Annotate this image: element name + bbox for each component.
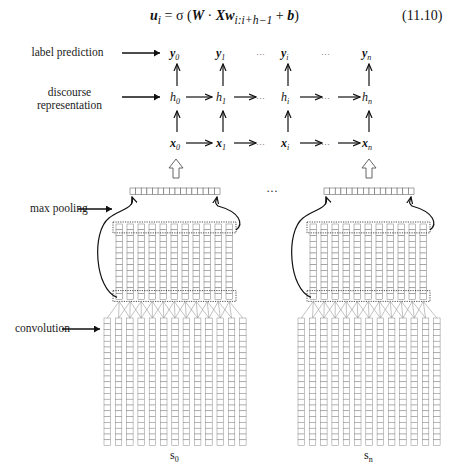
feature-cell: [182, 265, 189, 271]
input-cell: [194, 405, 201, 411]
input-cell: [355, 318, 362, 324]
input-cell: [332, 393, 339, 399]
input-cell: [149, 417, 156, 423]
feature-cell: [310, 259, 317, 265]
input-cell: [138, 434, 145, 440]
input-cell: [434, 434, 441, 440]
input-cell: [138, 393, 145, 399]
conv-connection: [390, 301, 391, 318]
input-cell: [127, 417, 134, 423]
feature-cell: [193, 241, 200, 247]
input-cell: [161, 318, 168, 324]
feature-cell: [193, 247, 200, 253]
input-cell: [217, 364, 224, 370]
input-cell: [388, 335, 395, 341]
conv-connection: [209, 301, 218, 318]
input-cell: [434, 417, 441, 423]
input-cell: [127, 330, 134, 336]
feature-cell: [398, 247, 405, 253]
input-cell: [115, 440, 122, 446]
feature-cell: [149, 236, 156, 242]
input-cell: [377, 417, 384, 423]
feature-cell: [204, 236, 211, 242]
feature-cell: [138, 265, 145, 271]
input-cell: [434, 318, 441, 324]
input-cell: [309, 393, 316, 399]
input-cell: [309, 347, 316, 353]
input-cell: [332, 347, 339, 353]
input-cell: [411, 411, 418, 417]
feature-cell: [398, 230, 405, 236]
feature-cell: [215, 236, 222, 242]
input-cell: [104, 330, 111, 336]
conv-connection: [119, 301, 120, 318]
input-cell: [321, 399, 328, 405]
feature-cell: [116, 224, 123, 230]
pooling-cell: [181, 188, 187, 195]
input-cell: [321, 376, 328, 382]
input-cell: [366, 399, 373, 405]
input-cell: [355, 341, 362, 347]
input-cell: [377, 324, 384, 330]
input-cell: [422, 434, 429, 440]
feature-cell: [138, 224, 145, 230]
input-cell: [422, 388, 429, 394]
feature-cell: [160, 276, 167, 282]
input-cell: [127, 411, 134, 417]
pooling-cell: [335, 188, 341, 195]
input-cell: [240, 388, 247, 394]
input-cell: [138, 399, 145, 405]
input-cell: [355, 428, 362, 434]
input-cell: [115, 318, 122, 324]
input-cell: [183, 382, 190, 388]
feature-cell: [160, 224, 167, 230]
input-cell: [343, 428, 350, 434]
input-cell: [366, 405, 373, 411]
feature-cell: [343, 224, 350, 230]
pooling-cell: [392, 188, 398, 195]
input-cell: [377, 335, 384, 341]
input-cell: [183, 330, 190, 336]
feature-cell: [321, 247, 328, 253]
input-cell: [321, 330, 328, 336]
input-cell: [172, 324, 179, 330]
input-cell: [366, 341, 373, 347]
input-cell: [422, 393, 429, 399]
feature-cell: [138, 259, 145, 265]
input-cell: [149, 353, 156, 359]
input-cell: [149, 399, 156, 405]
input-cell: [400, 399, 407, 405]
input-cell: [298, 376, 305, 382]
input-cell: [138, 359, 145, 365]
input-cell: [183, 353, 190, 359]
feature-cell: [160, 236, 167, 242]
feature-cell: [343, 282, 350, 288]
hollow-up-arrow: [362, 159, 376, 178]
input-cell: [228, 388, 235, 394]
input-cell: [321, 341, 328, 347]
feature-cell: [182, 247, 189, 253]
input-cell: [206, 405, 213, 411]
input-cell: [228, 405, 235, 411]
input-cell: [298, 341, 305, 347]
input-cell: [127, 353, 134, 359]
input-cell: [321, 382, 328, 388]
input-cell: [309, 324, 316, 330]
conv-connection: [313, 301, 314, 318]
feature-cell: [215, 224, 222, 230]
conv-connection: [185, 301, 186, 318]
input-cell: [161, 341, 168, 347]
input-cell: [343, 318, 350, 324]
input-cell: [138, 382, 145, 388]
input-cell: [161, 393, 168, 399]
input-cell: [355, 382, 362, 388]
input-cell: [332, 376, 339, 382]
feature-cell: [160, 253, 167, 259]
input-cell: [161, 359, 168, 365]
input-cell: [194, 347, 201, 353]
input-cell: [332, 422, 339, 428]
input-cell: [332, 364, 339, 370]
feature-cell: [160, 247, 167, 253]
input-cell: [366, 411, 373, 417]
feature-cell: [193, 259, 200, 265]
